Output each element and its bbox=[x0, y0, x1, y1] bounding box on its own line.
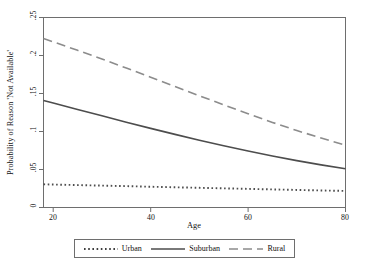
legend-label-urban: Urban bbox=[122, 244, 142, 253]
legend-label-suburban: Suburban bbox=[189, 244, 220, 253]
legend-item-urban[interactable]: Urban bbox=[84, 244, 142, 253]
legend-item-suburban[interactable]: Suburban bbox=[151, 244, 220, 253]
legend-swatch-suburban bbox=[151, 245, 185, 253]
figure-canvas: Probability of Reason 'Not Available' 0 … bbox=[0, 0, 369, 270]
legend-label-rural: Rural bbox=[267, 244, 285, 253]
x-axis-title: Age bbox=[43, 221, 345, 230]
legend-swatch-urban bbox=[84, 245, 118, 253]
legend-swatch-rural bbox=[229, 245, 263, 253]
chart-legend: Urban Suburban Rural bbox=[74, 239, 295, 258]
legend-item-rural[interactable]: Rural bbox=[229, 244, 285, 253]
